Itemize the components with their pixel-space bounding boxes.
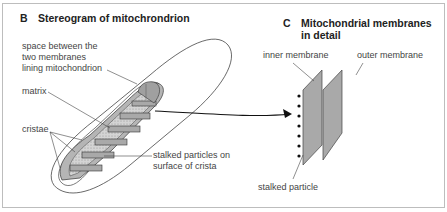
stalked-particles <box>297 94 300 157</box>
label-intermembrane-3: lining mitochondrion <box>22 63 102 74</box>
panel-b-title: BStereogram of mitochrondrion <box>20 12 190 24</box>
outer-membrane-sheet <box>323 70 342 160</box>
arrow-head-icon <box>283 109 292 118</box>
label-matrix: matrix <box>22 86 47 97</box>
label-inner-membrane: inner membrane <box>263 50 329 61</box>
label-cristae: cristae <box>22 124 49 135</box>
label-stalked-particles-1: stalked particles on <box>153 150 230 161</box>
diagram-canvas <box>0 0 447 212</box>
panel-c-title: CMitochondrial membranes <box>283 17 432 29</box>
inner-membrane-sheet <box>303 70 322 165</box>
panel-c-title-line2: in detail <box>301 29 341 41</box>
label-stalked-particles-2: surface of crista <box>153 161 217 172</box>
label-stalked-particle: stalked particle <box>258 182 318 193</box>
label-intermembrane-1: space between the <box>22 41 98 52</box>
label-intermembrane-2: two membranes <box>22 52 86 63</box>
label-outer-membrane: outer membrane <box>357 50 423 61</box>
